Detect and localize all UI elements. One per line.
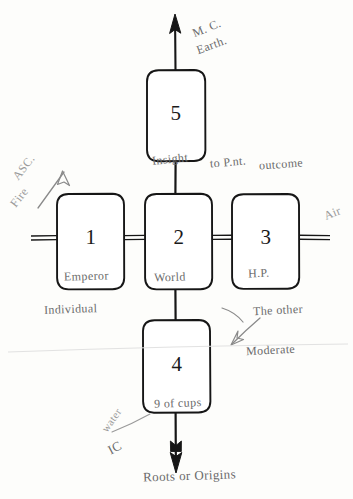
box-2-inner-label: World: [154, 269, 186, 285]
box-4-number: 4: [157, 352, 197, 377]
box-5-number: 5: [156, 101, 196, 126]
vertical-axis-top: [170, 14, 181, 70]
connector-box2-box3: [212, 235, 232, 239]
connector-box3-right-edge: [299, 235, 330, 239]
box-3-number: 3: [246, 225, 286, 250]
annotation-outcome: outcome: [259, 155, 304, 173]
diagram-canvas: 5 1 2 3 4 Emperor World H.P. 9 of cups I…: [0, 0, 353, 499]
box-1-number: 1: [71, 225, 111, 250]
connector-left-edge-box1: [31, 236, 57, 240]
annotation-moderate: Moderate: [246, 342, 296, 360]
box-2-number: 2: [159, 225, 199, 250]
connector-box1-box2: [124, 235, 145, 239]
annotation-to-point: to P.nt.: [209, 153, 246, 171]
annotation-the-other: The other: [253, 302, 304, 320]
annotation-individual: Individual: [44, 301, 98, 318]
box-1-inner-label: Emperor: [64, 268, 109, 284]
annotation-roots: Roots or Origins: [143, 466, 237, 485]
box-3-inner-label: H.P.: [248, 266, 270, 282]
vertical-axis-bottom: [170, 412, 182, 473]
box-4-inner-label: 9 of cups: [154, 395, 202, 412]
